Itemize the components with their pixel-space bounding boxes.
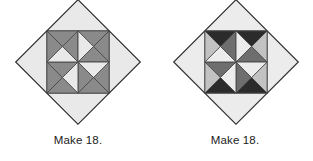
block-body-left [16,0,140,124]
quilt-block-figure: Make 18. [0,0,313,161]
quilt-block-unit-right: Make 18. [157,0,313,161]
block-caption-right: Make 18. [211,135,260,147]
block-caption-left: Make 18. [54,135,103,147]
quilt-block-left-illustration [0,0,156,133]
quilt-block-right-illustration [157,0,313,133]
block-body-right [174,0,298,124]
quilt-block-unit-left: Make 18. [0,0,156,161]
